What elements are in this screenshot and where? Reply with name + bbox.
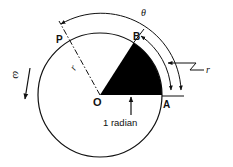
radian-diagram: O A B P r r θ ω 1 radian: [0, 0, 233, 167]
radius-line-op: [59, 21, 100, 95]
label-a: A: [163, 99, 170, 110]
label-radius-r: r: [67, 63, 79, 72]
label-theta: θ: [141, 7, 146, 18]
label-p: P: [56, 34, 63, 45]
omega-arrow: [25, 68, 30, 99]
label-arc-r: r: [206, 64, 210, 75]
label-one-radian: 1 radian: [103, 117, 137, 128]
r-leader-line: [168, 63, 204, 70]
label-b: B: [133, 31, 140, 42]
one-radian-sector: [100, 43, 162, 95]
label-o: O: [93, 96, 102, 108]
label-omega: ω: [11, 71, 23, 79]
